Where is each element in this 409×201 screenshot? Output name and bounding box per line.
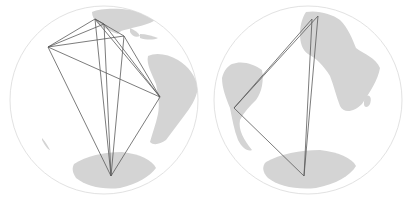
globe-map — [0, 0, 409, 201]
globe-right — [214, 6, 402, 194]
map-figure — [0, 0, 409, 201]
globe-left — [10, 6, 198, 194]
